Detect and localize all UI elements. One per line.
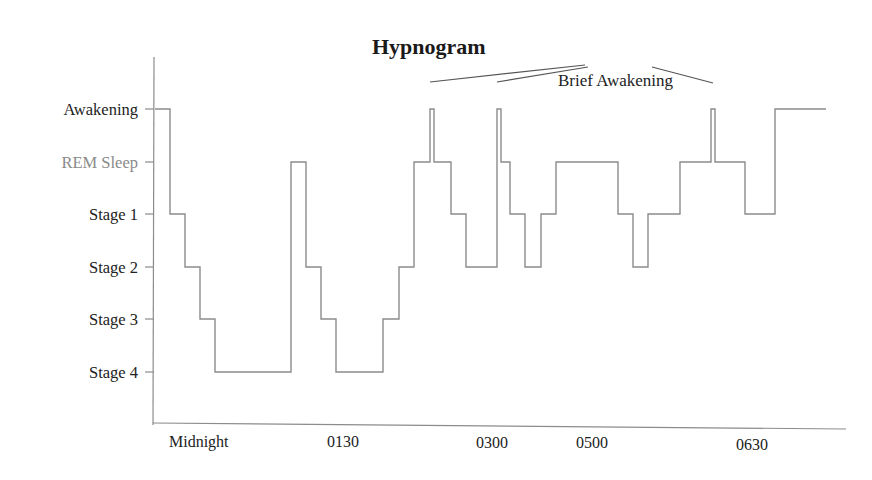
x-label-0630: 0630 — [736, 436, 768, 453]
y-label-stage-4: Stage 4 — [89, 363, 138, 382]
y-label-stage-1: Stage 1 — [89, 205, 138, 224]
y-tick-labels: Awakening REM Sleep Stage 1 Stage 2 Stag… — [61, 100, 138, 382]
sleep-stage-trace — [155, 109, 826, 372]
annotation-brief-awakening: Brief Awakening — [558, 71, 674, 90]
x-label-0130: 0130 — [327, 433, 359, 450]
chart-title: Hypnogram — [372, 34, 486, 59]
x-label-0300: 0300 — [476, 434, 508, 451]
y-label-stage-2: Stage 2 — [89, 258, 138, 277]
y-axis — [145, 57, 154, 425]
x-axis — [153, 423, 846, 429]
x-tick-labels: Midnight 0130 0300 0500 0630 — [169, 433, 768, 453]
hypnogram-chart: Hypnogram Brief Awakening Awakening REM … — [0, 0, 872, 480]
y-label-stage-3: Stage 3 — [89, 310, 138, 329]
x-label-midnight: Midnight — [169, 433, 229, 451]
y-label-rem-sleep: REM Sleep — [61, 153, 138, 172]
y-label-awakening: Awakening — [63, 100, 138, 119]
x-label-0500: 0500 — [576, 434, 608, 451]
